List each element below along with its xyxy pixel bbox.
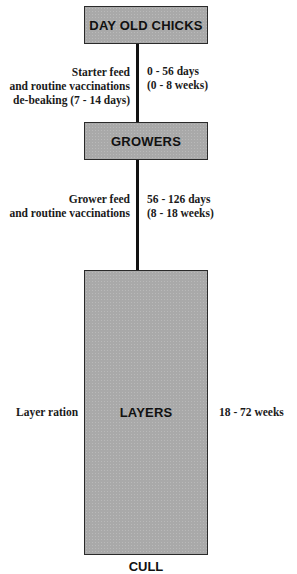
note-line: 56 - 126 days [147, 192, 214, 206]
stage-label: GROWERS [111, 134, 181, 149]
stage-day-old-chicks: DAY OLD CHICKS [84, 6, 208, 44]
note-line: 0 - 56 days [147, 64, 208, 78]
transition-2-left-notes: Grower feed and routine vaccinations [9, 192, 130, 220]
layers-left-note: Layer ration [16, 405, 78, 419]
note-line: Grower feed [9, 192, 130, 206]
note-line: (8 - 18 weeks) [147, 206, 214, 220]
layers-right-note: 18 - 72 weeks [219, 405, 284, 419]
stage-label: LAYERS [120, 405, 173, 420]
note-line: and routine vaccinations [9, 206, 130, 220]
stage-growers: GROWERS [84, 122, 208, 160]
note-line: de-beaking (7 - 14 days) [9, 93, 130, 107]
connector-line [136, 160, 139, 270]
stage-label: DAY OLD CHICKS [89, 18, 202, 33]
stage-layers: LAYERS [84, 270, 208, 555]
stage-cull: CULL [84, 559, 208, 574]
transition-2-right-notes: 56 - 126 days (8 - 18 weeks) [147, 192, 214, 220]
transition-1-left-notes: Starter feed and routine vaccinations de… [9, 65, 130, 107]
note-line: Starter feed [9, 65, 130, 79]
connector-line [136, 44, 139, 122]
note-line: (0 - 8 weeks) [147, 78, 208, 92]
transition-1-right-notes: 0 - 56 days (0 - 8 weeks) [147, 64, 208, 92]
note-line: and routine vaccinations [9, 79, 130, 93]
